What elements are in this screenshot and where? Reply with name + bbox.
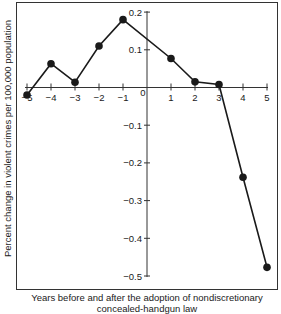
x-tick-label: 5 bbox=[264, 92, 269, 103]
x-tick-label: −1 bbox=[118, 92, 129, 103]
y-tick-label: 0.2 bbox=[129, 7, 142, 18]
x-tick-label: 0 bbox=[140, 87, 145, 98]
x-axis-label-line2: concealed-handgun law bbox=[16, 303, 278, 314]
data-point bbox=[191, 78, 199, 86]
data-point bbox=[95, 42, 103, 50]
y-tick-label: −0.5 bbox=[123, 271, 142, 282]
data-point bbox=[23, 91, 31, 99]
x-axis-label-line1: Years before and after the adoption of n… bbox=[16, 292, 278, 303]
data-point bbox=[215, 81, 223, 89]
data-point bbox=[119, 16, 127, 24]
data-point bbox=[71, 78, 79, 86]
x-tick-label: 1 bbox=[168, 92, 173, 103]
y-tick-label: −0.3 bbox=[123, 195, 142, 206]
data-point bbox=[263, 264, 271, 272]
y-axis-label: Percent change in violent crimes per 100… bbox=[2, 18, 13, 260]
x-tick-label: 2 bbox=[192, 92, 197, 103]
y-tick-label: −0.4 bbox=[123, 233, 142, 244]
data-point bbox=[47, 60, 55, 68]
line-chart: −5−4−3−2−10123450.20.1−0.1−0.2−0.3−0.4−0… bbox=[0, 0, 281, 314]
x-tick-label: −2 bbox=[94, 92, 105, 103]
data-point bbox=[239, 173, 247, 181]
x-axis-label: Years before and after the adoption of n… bbox=[16, 292, 278, 314]
y-tick-label: −0.2 bbox=[123, 157, 142, 168]
x-tick-label: −3 bbox=[70, 92, 81, 103]
y-tick-label: 0.1 bbox=[129, 44, 142, 55]
y-tick-label: −0.1 bbox=[123, 120, 142, 131]
x-tick-label: 4 bbox=[240, 92, 245, 103]
data-point bbox=[167, 55, 175, 63]
x-tick-label: −4 bbox=[46, 92, 57, 103]
axes bbox=[25, 11, 268, 277]
tick-labels: −5−4−3−2−10123450.20.1−0.1−0.2−0.3−0.4−0… bbox=[22, 7, 270, 282]
